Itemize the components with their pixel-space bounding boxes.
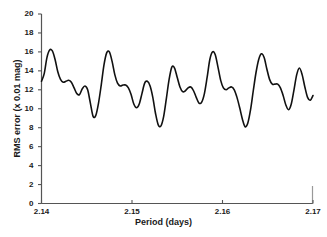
y-tick-label: 0 [14, 200, 34, 208]
x-axis-title: Period (days) [0, 218, 327, 227]
y-tick-label: 20 [14, 10, 34, 18]
y-tick-label: 18 [14, 29, 34, 37]
x-tick-label: 2.17 [298, 208, 327, 216]
x-tick-label: 2.14 [27, 208, 57, 216]
x-tick-label: 2.15 [117, 208, 147, 216]
y-axis-title: RMS error (x 0.01 mag) [13, 39, 22, 179]
y-tick-label: 2 [14, 181, 34, 189]
data-series-line [42, 49, 314, 126]
chart-figure: 02468101214161820 2.142.152.162.17 Perio… [0, 0, 327, 237]
x-tick-label: 2.16 [208, 208, 238, 216]
plot-canvas [0, 0, 327, 237]
